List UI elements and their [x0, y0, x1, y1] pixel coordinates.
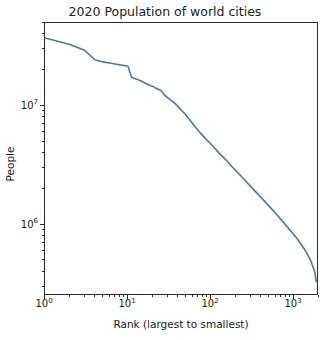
x-tick-minor	[260, 295, 261, 297]
y-tick-minor	[42, 152, 44, 153]
x-tick-minor	[84, 295, 85, 297]
x-tick-label: 103	[284, 298, 301, 309]
y-tick-minor	[42, 33, 44, 34]
y-tick-minor	[42, 250, 44, 251]
plot-area	[44, 22, 318, 295]
y-tick-label: 107	[10, 99, 38, 110]
x-tick-minor	[268, 295, 269, 297]
x-tick-minor	[235, 295, 236, 297]
y-tick-minor	[42, 271, 44, 272]
x-tick-minor	[280, 295, 281, 297]
x-tick-label: 100	[35, 298, 52, 309]
x-tick-minor	[94, 295, 95, 297]
y-tick-minor	[42, 259, 44, 260]
y-tick-minor	[42, 48, 44, 49]
y-tick-minor	[42, 229, 44, 230]
y-tick-minor	[42, 69, 44, 70]
y-tick-major	[40, 224, 44, 225]
x-tick-minor	[102, 295, 103, 297]
x-tick-minor	[177, 295, 178, 297]
y-tick-major	[40, 105, 44, 106]
y-tick-minor	[42, 188, 44, 189]
y-axis-label: People	[4, 134, 16, 194]
x-tick-minor	[275, 295, 276, 297]
x-tick-label: 101	[118, 298, 135, 309]
x-tick-label: 102	[201, 298, 218, 309]
y-tick-minor	[42, 116, 44, 117]
x-tick-minor	[69, 295, 70, 297]
x-axis-label: Rank (largest to smallest)	[44, 318, 318, 330]
x-tick-minor	[167, 295, 168, 297]
y-tick-minor	[42, 141, 44, 142]
y-tick-minor	[42, 123, 44, 124]
data-line-svg	[45, 23, 319, 296]
y-tick-minor	[42, 22, 44, 23]
population-rank-line	[45, 38, 316, 282]
y-tick-minor	[42, 286, 44, 287]
y-tick-minor	[42, 131, 44, 132]
x-tick-minor	[318, 295, 319, 297]
chart-title: 2020 Population of world cities	[0, 4, 330, 19]
y-tick-label: 106	[10, 218, 38, 229]
y-tick-minor	[42, 242, 44, 243]
y-tick-minor	[42, 110, 44, 111]
x-tick-minor	[114, 295, 115, 297]
x-tick-minor	[250, 295, 251, 297]
y-tick-minor	[42, 235, 44, 236]
x-tick-minor	[109, 295, 110, 297]
y-tick-minor	[42, 167, 44, 168]
x-tick-minor	[185, 295, 186, 297]
x-tick-minor	[192, 295, 193, 297]
chart-figure: 2020 Population of world cities 10010110…	[0, 0, 330, 340]
x-tick-minor	[197, 295, 198, 297]
x-tick-minor	[152, 295, 153, 297]
